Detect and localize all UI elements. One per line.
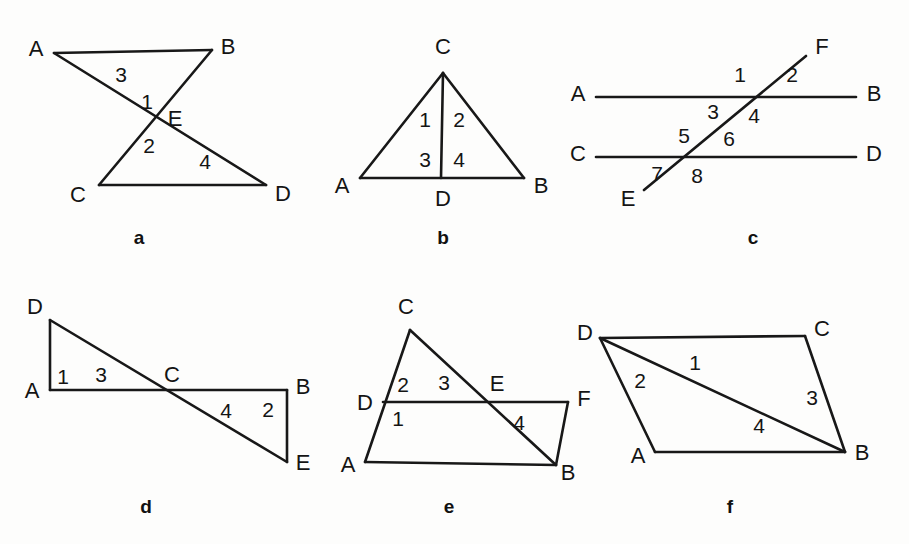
vertex-C: C [164,362,180,387]
vertex-C: C [435,34,451,59]
segment-CB [410,330,556,465]
vertex-B: B [867,81,882,106]
angle-1: 1 [57,365,69,388]
figure-caption-b: b [437,227,449,248]
segment-AD [54,53,266,185]
vertex-E: E [296,450,311,475]
vertex-F: F [577,386,590,411]
angle-1: 1 [392,407,404,430]
vertex-C: C [398,294,414,319]
angle-5: 5 [678,124,690,147]
angle-4: 4 [513,411,525,434]
vertex-B: B [296,374,311,399]
angle-3: 3 [95,363,107,386]
angle-7: 7 [651,162,663,185]
segment-DC [600,336,805,338]
angle-3: 3 [707,100,719,123]
figure-caption-a: a [134,227,145,248]
vertex-F: F [815,34,828,59]
vertex-D: D [357,390,373,415]
vertex-E: E [490,371,505,396]
vertex-E: E [168,106,183,131]
figure-caption-e: e [444,496,455,517]
angle-1: 1 [141,90,153,113]
angle-2: 2 [397,373,409,396]
figure-caption-f: f [727,496,734,517]
angle-4: 4 [199,150,211,173]
segment-AB [365,462,556,465]
geometry-figure-sheet: ABECD3124aCABD1234bABCDEF12345678cDACBE1… [0,0,909,544]
figure-caption-c: c [748,227,759,248]
angle-3: 3 [115,63,127,86]
vertex-D: D [275,181,291,206]
angle-6: 6 [723,127,735,150]
vertex-D: D [435,186,451,211]
angle-8: 8 [691,164,703,187]
geometry-figures-canvas: ABECD3124aCABD1234bABCDEF12345678cDACBE1… [0,0,909,544]
vertex-C: C [70,182,86,207]
vertex-A: A [335,173,350,198]
segment-FB [556,402,568,465]
figure-c: ABCDEF12345678c [570,34,882,248]
figure-caption-d: d [140,496,152,517]
angle-2: 2 [143,134,155,157]
vertex-D: D [866,141,882,166]
figure-b: CABD1234b [335,34,549,248]
angle-4: 4 [453,148,465,171]
angle-3: 3 [438,371,450,394]
vertex-A: A [25,378,40,403]
vertex-A: A [631,443,646,468]
vertex-B: B [534,173,549,198]
vertex-C: C [814,316,830,341]
angle-2: 2 [786,63,798,86]
segment-AB [54,50,212,53]
angle-1: 1 [734,63,746,86]
vertex-C: C [570,141,586,166]
angle-4: 4 [748,104,760,127]
figure-d: DACBE1342d [25,294,311,517]
vertex-B: B [221,34,236,59]
vertex-E: E [621,186,636,211]
vertex-B: B [855,440,870,465]
vertex-B: B [561,460,576,485]
vertex-A: A [341,452,356,477]
figure-e: CDEFAB2314e [341,294,591,517]
figure-a: ABECD3124a [29,34,291,248]
vertex-D: D [577,320,593,345]
angle-2: 2 [262,398,274,421]
line-EF [644,56,806,190]
vertex-A: A [571,81,586,106]
angle-1: 1 [689,351,701,374]
angle-4: 4 [753,414,765,437]
angle-4: 4 [220,399,232,422]
angle-2: 2 [634,369,646,392]
segment-CD [441,73,443,178]
angle-1: 1 [419,108,431,131]
vertex-A: A [29,36,44,61]
angle-3: 3 [806,386,818,409]
angle-3: 3 [419,148,431,171]
figure-f: DCAB1234f [577,316,869,517]
angle-2: 2 [453,108,465,131]
vertex-D: D [27,294,43,319]
segment-DA [600,338,655,452]
